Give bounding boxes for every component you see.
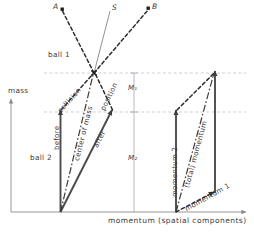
label-ball-2: ball 2 xyxy=(30,154,52,161)
label-mass-m2: M₂ xyxy=(128,155,137,162)
label-point-b: B xyxy=(152,3,157,11)
vector-momentum-2-translated xyxy=(177,74,214,110)
label-ball-1: ball 1 xyxy=(48,51,70,58)
diagram-svg xyxy=(0,0,254,237)
label-vector-before: before xyxy=(54,126,61,150)
label-mass-axis: mass xyxy=(8,87,28,94)
label-momentum-axis: momentum (spatial components) xyxy=(108,217,247,225)
point-marker-a xyxy=(61,8,64,11)
label-point-s: S xyxy=(112,4,117,12)
worldlines xyxy=(61,7,150,76)
label-point-a: A xyxy=(53,3,58,11)
label-mass-m1: M₁ xyxy=(128,85,137,92)
label-vector-momentum-2: momentum 2 xyxy=(172,147,179,197)
diagram-canvas: A S B ball 1 ball 2 mass momentum (spati… xyxy=(0,0,254,237)
worldline-a xyxy=(62,10,94,73)
point-marker-b xyxy=(147,7,150,10)
